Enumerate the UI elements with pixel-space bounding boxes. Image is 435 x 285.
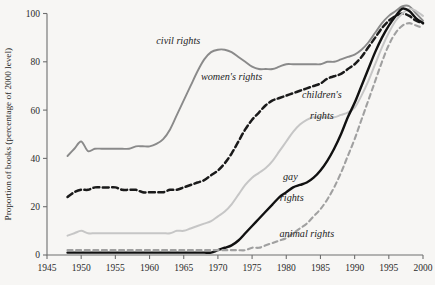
x-tick-label: 1995 bbox=[379, 263, 398, 273]
x-tick-label: 1985 bbox=[311, 263, 330, 273]
x-tick-label: 1975 bbox=[243, 263, 262, 273]
label-gay-rights-line1: gay bbox=[283, 171, 298, 182]
x-tick-label: 1945 bbox=[38, 263, 57, 273]
label-womens-rights: women's rights bbox=[201, 71, 262, 82]
x-tick-label: 2000 bbox=[414, 263, 433, 273]
line-chart: 0204060801001945195019551960196519701975… bbox=[0, 0, 435, 285]
y-tick-label: 100 bbox=[26, 9, 41, 19]
x-tick-label: 1950 bbox=[72, 263, 91, 273]
x-tick-label: 1970 bbox=[208, 263, 227, 273]
y-axis-title: Proportion of books (percentage of 2000 … bbox=[3, 48, 13, 220]
y-axis-title-text: Proportion of books (percentage of 2000 … bbox=[3, 48, 13, 220]
label-civil-rights: civil rights bbox=[156, 35, 200, 46]
label-childrens-rights-line1: children's bbox=[302, 89, 342, 100]
series-lines bbox=[68, 5, 423, 252]
x-tick-label: 1955 bbox=[106, 263, 125, 273]
x-tick-label: 1960 bbox=[140, 263, 159, 273]
label-childrens-rights-line2: rights bbox=[310, 110, 334, 121]
y-tick-label: 20 bbox=[31, 202, 41, 212]
y-tick-label: 80 bbox=[31, 57, 41, 67]
y-tick-label: 0 bbox=[35, 250, 40, 260]
y-tick-label: 40 bbox=[31, 154, 41, 164]
x-tick-label: 1965 bbox=[174, 263, 193, 273]
y-tick-label: 60 bbox=[31, 106, 41, 116]
series-line-animal-rights bbox=[68, 23, 423, 250]
label-animal-rights: animal rights bbox=[279, 228, 334, 239]
x-tick-label: 1980 bbox=[277, 263, 296, 273]
label-gay-rights-line2: rights bbox=[280, 192, 304, 203]
chart-container: 0204060801001945195019551960196519701975… bbox=[0, 0, 435, 285]
x-tick-label: 1990 bbox=[345, 263, 364, 273]
series-line-children-s-rights bbox=[68, 9, 423, 236]
